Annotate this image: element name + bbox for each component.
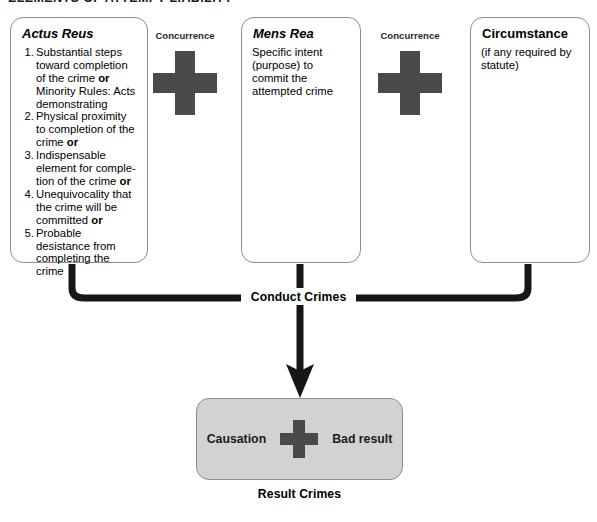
list-item: 2.Physical proximity to completion of th… bbox=[21, 110, 138, 149]
rule-line: of the crime bbox=[36, 72, 98, 84]
plus-sign-icon bbox=[280, 420, 318, 458]
list-item: 3.Indispensable element for comple- tion… bbox=[21, 149, 138, 188]
rule-line: Substantial steps bbox=[36, 46, 122, 58]
conduct-crimes-text: Conduct Crimes bbox=[241, 290, 357, 304]
rule-line: the crime will be bbox=[36, 201, 117, 213]
rule-line: Unequivocality that bbox=[36, 188, 131, 200]
rule-line: Indispensable bbox=[36, 149, 106, 161]
mens-rea-body: Specific intent (purpose) to commit the … bbox=[252, 46, 351, 98]
actus-reus-rule-list: 1.Substantial steps toward completion of… bbox=[21, 46, 138, 278]
mens-rea-title: Mens Rea bbox=[253, 27, 351, 42]
arrow-head-icon bbox=[286, 364, 314, 398]
plus-sign-icon bbox=[378, 51, 442, 115]
circumstance-box: Circumstance (if any required by statute… bbox=[470, 17, 590, 263]
diagram-canvas: ELEMENTS OF ATTEMPT LIABILITY Actus Reus… bbox=[0, 0, 597, 522]
rule-number: 3. bbox=[21, 149, 34, 162]
bad-result-label: Bad result bbox=[332, 432, 392, 446]
rule-number: 4. bbox=[21, 188, 34, 201]
rule-number: 2. bbox=[21, 110, 34, 123]
circumstance-title: Circumstance bbox=[482, 27, 580, 42]
list-item: 1.Substantial steps toward completion of… bbox=[21, 46, 138, 111]
rule-conjunction: or bbox=[120, 175, 131, 187]
rule-line: Probable desistance bbox=[36, 227, 90, 252]
concurrence-label-left: Concurrence bbox=[135, 30, 235, 41]
rule-line: tion of the crime bbox=[36, 175, 120, 187]
actus-reus-title: Actus Reus bbox=[22, 27, 138, 42]
list-item: 5.Probable desistance from completing th… bbox=[21, 227, 138, 279]
rule-number: 1. bbox=[21, 46, 34, 59]
rule-line: toward completion bbox=[36, 59, 128, 71]
rule-line: completion of the bbox=[49, 123, 135, 135]
concurrence-label-right: Concurrence bbox=[360, 30, 460, 41]
actus-reus-box: Actus Reus 1.Substantial steps toward co… bbox=[10, 17, 148, 263]
rule-conjunction: or bbox=[98, 72, 109, 84]
circumstance-body-text: (if any required by statute) bbox=[481, 46, 580, 72]
mens-rea-body-text: Specific intent (purpose) to commit the … bbox=[252, 46, 351, 98]
rule-number: 5. bbox=[21, 227, 34, 240]
rule-line: demonstrating bbox=[36, 98, 108, 110]
plus-sign-icon bbox=[153, 51, 217, 115]
mens-rea-box: Mens Rea Specific intent (purpose) to co… bbox=[241, 17, 361, 263]
conduct-crimes-label: Conduct Crimes bbox=[0, 290, 597, 304]
rule-line: element for comple- bbox=[36, 162, 136, 174]
concurrence-group-right: Concurrence bbox=[360, 30, 460, 115]
rule-line: committed bbox=[36, 214, 91, 226]
concurrence-group-left: Concurrence bbox=[135, 30, 235, 115]
circumstance-body: (if any required by statute) bbox=[481, 46, 580, 72]
rule-conjunction: or bbox=[91, 214, 102, 226]
rule-line: crime bbox=[36, 136, 67, 148]
list-item: 4.Unequivocality that the crime will be … bbox=[21, 188, 138, 227]
rule-conjunction: or bbox=[67, 136, 78, 148]
rule-line: Minority Rules: Acts bbox=[36, 85, 135, 97]
causation-label: Causation bbox=[207, 432, 266, 446]
result-crimes-box: Causation Bad result bbox=[196, 398, 403, 480]
result-crimes-caption: Result Crimes bbox=[196, 487, 403, 501]
page-title: ELEMENTS OF ATTEMPT LIABILITY bbox=[8, 0, 568, 5]
